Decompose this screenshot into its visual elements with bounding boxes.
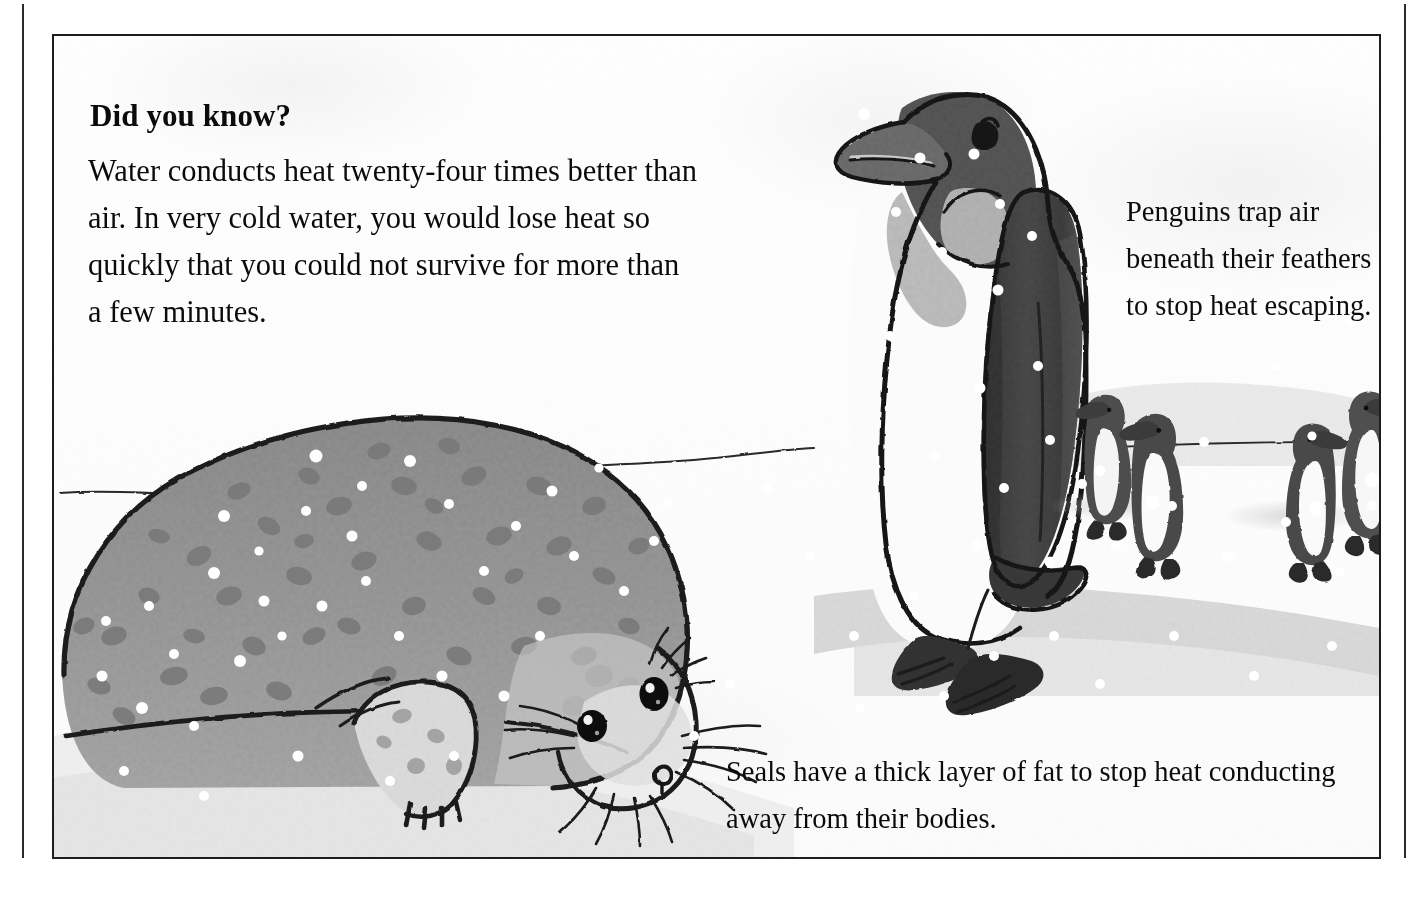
outer-rule-right [1404,4,1406,858]
seal-illustration [62,417,766,846]
book-page: Did you know? Water conducts heat twenty… [0,0,1423,897]
seal-caption: Seals have a thick layer of fat to stop … [726,748,1366,842]
penguin-caption: Penguins trap air beneath their feathers… [1126,188,1381,329]
did-you-know-heading: Did you know? [90,98,291,134]
did-you-know-body: Water conducts heat twenty-four times be… [88,148,700,336]
illustration-frame: Did you know? Water conducts heat twenty… [52,34,1381,859]
outer-rule-left [22,4,24,858]
